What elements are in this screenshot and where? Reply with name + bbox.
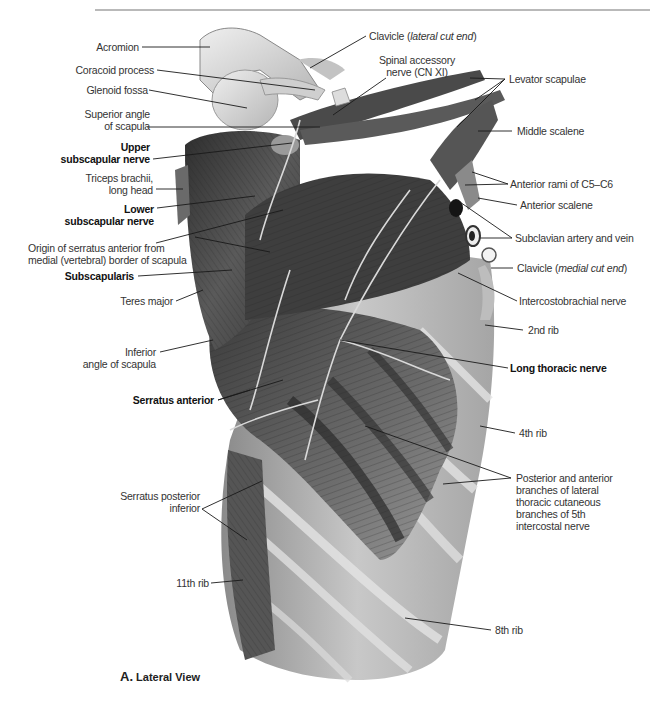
label-teres-major: Teres major — [120, 295, 173, 307]
label-glenoid-fossa: Glenoid fossa — [86, 84, 148, 96]
triceps-long-head-muscle — [175, 165, 190, 225]
label-4th-rib: 4th rib — [519, 427, 547, 439]
figure-caption: A. Lateral View — [120, 669, 200, 684]
label-serratus-anterior: Serratus anterior — [133, 394, 214, 406]
label-clavicle-lateral-cut-end: Clavicle (lateral cut end) — [369, 30, 476, 42]
label-superior-angle-of-scapula: Superior angleof scapula — [85, 108, 151, 132]
label-lower-subscapular-nerve: Lowersubscapular nerve — [65, 203, 154, 227]
label-long-thoracic-nerve: Long thoracic nerve — [510, 362, 607, 374]
label-inferior-angle-of-scapula: Inferiorangle of scapula — [83, 346, 156, 370]
label-origin-serratus-anterior: Origin of serratus anterior frommedial (… — [28, 242, 187, 266]
label-upper-subscapular-nerve: Uppersubscapular nerve — [61, 141, 150, 165]
label-posterior-anterior-branches: Posterior and anteriorbranches of latera… — [516, 472, 613, 532]
label-subclavian-artery-vein: Subclavian artery and vein — [515, 232, 634, 244]
label-11th-rib: 11th rib — [176, 577, 209, 589]
label-2nd-rib: 2nd rib — [528, 324, 559, 336]
label-spinal-accessory-nerve: Spinal accessorynerve (CN XI) — [372, 54, 462, 78]
label-intercostobrachial-nerve: Intercostobrachial nerve — [519, 295, 626, 307]
label-serratus-posterior-inferior: Serratus posteriorinferior — [120, 490, 200, 514]
label-anterior-scalene: Anterior scalene — [520, 199, 593, 211]
label-anterior-rami-c5-c6: Anterior rami of C5–C6 — [510, 178, 613, 190]
label-coracoid-process: Coracoid process — [75, 64, 154, 76]
label-levator-scapulae: Levator scapulae — [509, 73, 586, 85]
label-middle-scalene: Middle scalene — [517, 125, 584, 137]
label-clavicle-medial-cut-end: Clavicle (medial cut end) — [517, 262, 627, 274]
label-subscapularis: Subscapularis — [65, 270, 134, 282]
label-triceps-brachii-long-head: Triceps brachii,long head — [85, 172, 153, 196]
label-8th-rib: 8th rib — [495, 624, 523, 636]
label-acromion: Acromion — [96, 41, 139, 53]
